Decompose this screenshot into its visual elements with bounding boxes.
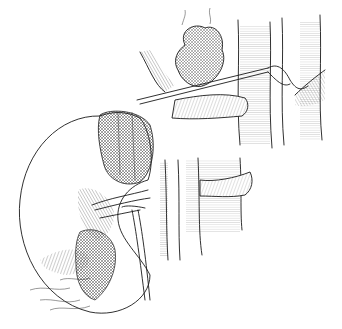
kidney (19, 111, 153, 313)
great-vessels (160, 158, 252, 260)
inset-upper-right (137, 8, 325, 148)
anatomical-illustration (0, 0, 342, 329)
